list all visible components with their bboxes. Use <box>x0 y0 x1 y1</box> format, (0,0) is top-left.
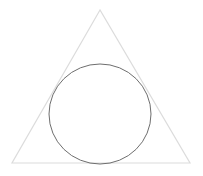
diagram-canvas <box>0 0 203 176</box>
triangle-shape <box>12 10 190 163</box>
inscribed-circle-shape <box>49 64 151 164</box>
